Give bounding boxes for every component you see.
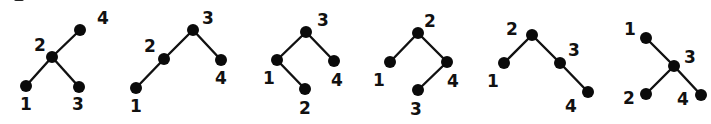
tree-edge (164, 30, 193, 59)
tree-node (74, 24, 86, 36)
tree-node (20, 80, 32, 92)
tree-edge (277, 60, 305, 89)
node-label: 3 (684, 47, 696, 67)
node-label: 1 (263, 68, 275, 88)
binary-trees-diagram: 421332143124214321341324 (0, 0, 711, 124)
node-label: 1 (624, 19, 636, 39)
labels-layer: 421332143124214321341324 (20, 8, 696, 119)
edges-layer (26, 30, 701, 95)
tree-node (412, 84, 424, 96)
node-label: 4 (97, 8, 109, 28)
tree-node (158, 53, 170, 65)
node-label: 2 (623, 88, 635, 108)
tree-node (271, 54, 283, 66)
tree-node (554, 57, 566, 69)
tree-node (526, 29, 538, 41)
tree-edge (193, 30, 221, 60)
node-label: 3 (568, 40, 580, 60)
node-label: 4 (565, 96, 577, 116)
node-label: 2 (299, 98, 311, 118)
node-label: 2 (424, 11, 436, 31)
tree-node (441, 56, 453, 68)
node-label: 2 (506, 19, 518, 39)
tree-node (215, 54, 227, 66)
nodes-layer (20, 24, 707, 101)
node-label: 3 (72, 94, 84, 114)
node-label: 3 (410, 99, 422, 119)
tree-3-edges (277, 32, 334, 89)
tree-node (73, 81, 85, 93)
tree-node (582, 86, 594, 98)
tree-node (668, 60, 680, 72)
node-label: 3 (202, 8, 214, 28)
tree-edge (306, 32, 334, 61)
tree-edge (52, 57, 79, 87)
tree-node (46, 51, 58, 63)
node-label: 1 (130, 96, 142, 116)
node-label: 4 (215, 68, 227, 88)
tree-node (187, 24, 199, 36)
node-label: 2 (144, 36, 156, 56)
node-label: 3 (317, 10, 329, 30)
tree-4-edges (390, 33, 447, 90)
tree-edge (418, 62, 447, 90)
node-label: 1 (373, 70, 385, 90)
tree-node (412, 27, 424, 39)
tree-node (328, 55, 340, 67)
tree-edge (560, 63, 588, 92)
node-label: 1 (20, 94, 32, 114)
tree-node (640, 32, 652, 44)
tree-node (300, 26, 312, 38)
tree-node (384, 56, 396, 68)
node-label: 1 (487, 71, 499, 91)
tree-edge (277, 32, 306, 60)
tree-node (498, 57, 510, 69)
node-label: 4 (331, 70, 343, 90)
tree-node (695, 89, 707, 101)
tree-edge (136, 59, 164, 88)
tree-edge (390, 33, 418, 62)
tree-edge (418, 33, 447, 62)
tree-node (130, 82, 142, 94)
node-label: 4 (447, 71, 459, 91)
node-label: 2 (34, 35, 46, 55)
node-label: 4 (677, 89, 689, 109)
tree-node (299, 83, 311, 95)
tree-node (640, 88, 652, 100)
